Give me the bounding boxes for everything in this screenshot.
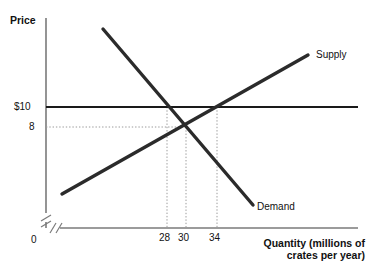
supply-curve-label: Supply bbox=[316, 49, 347, 61]
supply-demand-chart: Price Quantity (millions ofcrates per ye… bbox=[0, 0, 369, 270]
x-axis-title: Quantity (millions ofcrates per year) bbox=[243, 237, 365, 261]
demand-curve bbox=[103, 29, 253, 205]
x-axis-title-line1: Quantity (millions of bbox=[264, 237, 366, 249]
y-tick-label-10: $10 bbox=[14, 101, 31, 113]
x-tick-label-34: 34 bbox=[209, 232, 220, 244]
x-axis-title-line2: crates per year) bbox=[287, 249, 365, 261]
x-tick-label-30: 30 bbox=[178, 232, 189, 244]
y-tick-label-8: 8 bbox=[29, 121, 35, 133]
demand-curve-label: Demand bbox=[257, 201, 295, 213]
origin-label: 0 bbox=[31, 234, 37, 246]
chart-canvas bbox=[0, 0, 369, 270]
x-tick-label-28: 28 bbox=[159, 232, 170, 244]
y-axis-title: Price bbox=[10, 14, 36, 26]
y-axis-break-mark-1 bbox=[41, 215, 51, 221]
x-axis-break-mark-1 bbox=[50, 223, 56, 233]
